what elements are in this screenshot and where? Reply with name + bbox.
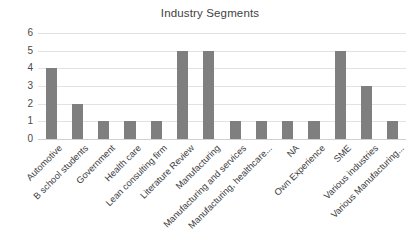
bar[interactable] <box>46 68 57 139</box>
bar[interactable] <box>335 51 346 139</box>
y-axis: 0123456 <box>0 33 33 139</box>
gridline <box>38 86 406 87</box>
chart-title: Industry Segments <box>0 7 420 19</box>
y-axis-tick-label: 2 <box>3 99 33 109</box>
y-axis-tick-label: 1 <box>3 116 33 126</box>
bar[interactable] <box>203 51 214 139</box>
bar[interactable] <box>308 121 319 139</box>
gridline <box>38 68 406 69</box>
bar[interactable] <box>98 121 109 139</box>
bar[interactable] <box>230 121 241 139</box>
y-axis-tick-label: 3 <box>3 81 33 91</box>
bar[interactable] <box>361 86 372 139</box>
gridline <box>38 33 406 34</box>
bar[interactable] <box>177 51 188 139</box>
gridline <box>38 121 406 122</box>
x-axis-labels: AutomotiveB school studentsGovernmentHea… <box>38 141 406 249</box>
bar[interactable] <box>387 121 398 139</box>
bar[interactable] <box>124 121 135 139</box>
bar[interactable] <box>72 104 83 139</box>
gridline <box>38 51 406 52</box>
gridline <box>38 104 406 105</box>
industry-segments-bar-chart: Industry Segments 0123456 AutomotiveB sc… <box>0 0 420 249</box>
plot-area <box>38 33 406 139</box>
y-axis-tick-label: 5 <box>3 46 33 56</box>
y-axis-tick-label: 6 <box>3 28 33 38</box>
y-axis-tick-label: 0 <box>3 134 33 144</box>
bar[interactable] <box>151 121 162 139</box>
x-axis-line <box>38 139 406 140</box>
bar[interactable] <box>256 121 267 139</box>
y-axis-tick-label: 4 <box>3 63 33 73</box>
bar[interactable] <box>282 121 293 139</box>
